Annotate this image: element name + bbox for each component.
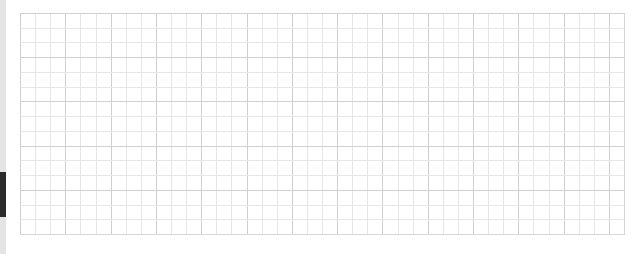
grid-vertical-line [398, 13, 399, 234]
grid-vertical-line [186, 13, 187, 234]
grid-horizontal-line [20, 116, 624, 117]
grid-horizontal-line [20, 42, 624, 43]
grid-vertical-line [80, 13, 81, 234]
grid-horizontal-line [20, 13, 624, 14]
grid-vertical-line [352, 13, 353, 234]
grid-vertical-line [262, 13, 263, 234]
grid-horizontal-line [20, 28, 624, 29]
grid-vertical-line [307, 13, 308, 234]
grid-vertical-line [126, 13, 127, 234]
grid-vertical-line [65, 13, 66, 234]
grid-vertical-line [35, 13, 36, 234]
grid-vertical-line [96, 13, 97, 234]
grid-vertical-line [277, 13, 278, 234]
grid-vertical-line [322, 13, 323, 234]
grid-vertical-line [518, 13, 519, 234]
grid-horizontal-line [20, 190, 624, 191]
grid-horizontal-line [20, 175, 624, 176]
grid-vertical-line [533, 13, 534, 234]
grid-vertical-line [503, 13, 504, 234]
grid-horizontal-line [20, 87, 624, 88]
grid-vertical-line [428, 13, 429, 234]
grid-horizontal-line [20, 57, 624, 58]
grid-vertical-line [413, 13, 414, 234]
grid-vertical-line [609, 13, 610, 234]
grid-horizontal-line [20, 131, 624, 132]
grid-vertical-line [458, 13, 459, 234]
grid-vertical-line [20, 13, 21, 234]
grid-vertical-line [473, 13, 474, 234]
grid-vertical-line [50, 13, 51, 234]
left-scrollbar-track[interactable] [0, 0, 6, 254]
grid-vertical-line [231, 13, 232, 234]
grid-vertical-line [247, 13, 248, 234]
grid-vertical-line [594, 13, 595, 234]
grid-canvas[interactable] [20, 13, 625, 235]
grid-vertical-line [111, 13, 112, 234]
grid-vertical-line [382, 13, 383, 234]
grid-vertical-line [564, 13, 565, 234]
grid-vertical-line [141, 13, 142, 234]
grid-vertical-line [579, 13, 580, 234]
grid-vertical-line [367, 13, 368, 234]
grid-horizontal-line [20, 72, 624, 73]
grid-horizontal-line [20, 101, 624, 102]
grid-vertical-line [549, 13, 550, 234]
grid-horizontal-line [20, 219, 624, 220]
grid-vertical-line [488, 13, 489, 234]
grid-vertical-line [443, 13, 444, 234]
grid-vertical-line [216, 13, 217, 234]
grid-horizontal-line [20, 146, 624, 147]
grid-horizontal-line [20, 205, 624, 206]
grid-horizontal-line [20, 160, 624, 161]
grid-vertical-line [292, 13, 293, 234]
grid-vertical-line [337, 13, 338, 234]
grid-vertical-line [201, 13, 202, 234]
grid-vertical-line [156, 13, 157, 234]
grid-vertical-line [171, 13, 172, 234]
scrollbar-thumb[interactable] [0, 172, 6, 217]
